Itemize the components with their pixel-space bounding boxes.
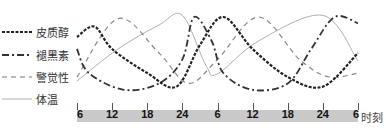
axis-tick-label: 12	[247, 108, 259, 120]
x-axis-title: 时刻	[361, 109, 383, 125]
axis-tick-label: 18	[282, 108, 294, 120]
axis-tick-label: 6	[77, 108, 83, 120]
axis-tick-label: 6	[214, 108, 220, 120]
axis-tick-label: 24	[317, 108, 329, 120]
axis-tick-label: 6	[353, 108, 359, 120]
cortisol-curve	[77, 17, 358, 88]
axis-tick-label: 12	[106, 108, 118, 120]
axis-tick-label: 18	[141, 108, 153, 120]
melatonin-curve	[77, 16, 358, 91]
body-temp-curve	[77, 13, 358, 81]
axis-tick-label: 24	[176, 108, 188, 120]
